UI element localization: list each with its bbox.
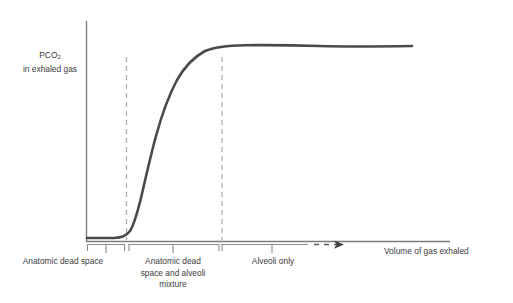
capnogram-figure: PCO2in exhaled gas Volume of gas exhaled… bbox=[0, 0, 513, 303]
x-axis-label: Volume of gas exhaled bbox=[384, 246, 469, 258]
region-label-alveoli-only: Alveoli only bbox=[237, 256, 309, 268]
region-label-anatomic-dead-space: Anatomic dead space bbox=[8, 256, 118, 268]
region-label-dead-space-and-alveoli: Anatomic dead space and alveoli mixture bbox=[126, 256, 220, 291]
y-axis-label-line2: in exhaled gas bbox=[23, 64, 77, 74]
y-axis-label-line1: PCO bbox=[39, 50, 57, 60]
pco2-curve bbox=[87, 45, 412, 238]
region-bracket-alveoli-only bbox=[222, 244, 309, 253]
region-bracket-dead-space-and-alveoli bbox=[129, 244, 220, 253]
y-axis-label-subscript: 2 bbox=[57, 54, 60, 60]
y-axis-label: PCO2in exhaled gas bbox=[14, 50, 86, 75]
region-bracket-anatomic-dead-space bbox=[87, 244, 125, 253]
